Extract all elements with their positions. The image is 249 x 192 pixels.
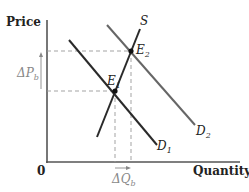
demand-curve-d2 <box>107 25 195 125</box>
x-axis-label: Quantity <box>193 164 249 178</box>
y-axis-label: Price <box>6 15 41 29</box>
delta-q-arrowhead-icon <box>126 166 131 170</box>
e2-label: E2 <box>135 43 150 59</box>
delta-q-label: ΔQb <box>111 172 136 188</box>
delta-p-label: ΔPb <box>16 66 39 82</box>
origin-label: 0 <box>37 164 45 178</box>
e1-label: E1 <box>106 74 121 90</box>
supply-label: S <box>140 14 148 28</box>
d2-label: D2 <box>195 124 211 140</box>
delta-p-arrowhead-icon <box>39 52 43 57</box>
equilibrium-point-e2 <box>128 48 133 53</box>
d1-label: D1 <box>156 139 172 155</box>
supply-demand-diagram: Price Quantity 0 S D1 D2 E1 E2 ΔPb ΔQb <box>0 0 249 192</box>
